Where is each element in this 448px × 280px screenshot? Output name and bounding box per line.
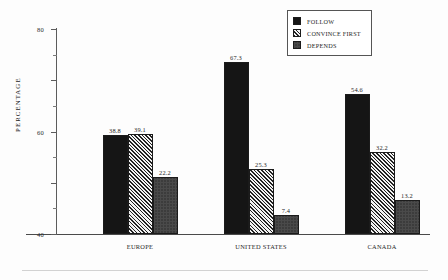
footer-divider — [22, 270, 428, 271]
y-axis-tick: 20 — [51, 183, 57, 184]
y-axis-title: PERCENTAGE — [14, 77, 21, 132]
bar-value-label: 54.6 — [351, 86, 363, 93]
bar-value-label: 25.3 — [255, 161, 267, 168]
bar-group: 38.839.122.2 — [103, 29, 178, 234]
x-axis-line — [26, 234, 430, 235]
bar-value-label: 22.2 — [159, 169, 171, 176]
bar-group: 67.325.37.4 — [224, 29, 299, 234]
plot-area: 020406080 38.839.122.267.325.37.454.632.… — [56, 29, 426, 234]
bar[interactable]: 39.1 — [128, 134, 153, 234]
diagonal-hatch-swatch — [293, 29, 301, 37]
bar[interactable]: 22.2 — [153, 177, 178, 234]
x-axis-tick-label: EUROPE — [127, 243, 154, 250]
y-axis-tick-label: 40 — [37, 231, 44, 238]
y-axis-minor-tick — [53, 55, 57, 56]
bar-value-label: 38.8 — [109, 127, 121, 134]
bar-value-label: 13.2 — [401, 192, 413, 199]
legend-item-label: DEPENDS — [307, 42, 337, 49]
bar-value-label: 39.1 — [134, 126, 146, 133]
bar-value-label: 32.2 — [376, 144, 388, 151]
y-axis-tick: 80 — [51, 29, 57, 30]
bar[interactable]: 25.3 — [249, 169, 274, 234]
bar[interactable]: 7.4 — [274, 215, 299, 234]
stipple-swatch — [293, 41, 301, 49]
bar[interactable]: 38.8 — [103, 135, 128, 234]
legend-item-label: CONVINCE FIRST — [307, 30, 361, 37]
legend-item: CONVINCE FIRST — [293, 27, 366, 39]
bar-value-label: 7.4 — [282, 207, 290, 214]
y-axis-minor-tick — [53, 106, 57, 107]
bar[interactable]: 54.6 — [345, 94, 370, 234]
chart-figure: PERCENTAGE 020406080 38.839.122.267.325.… — [0, 0, 448, 280]
bar[interactable]: 67.3 — [224, 62, 249, 234]
x-axis-tick-label: CANADA — [367, 243, 396, 250]
solid-black-swatch — [293, 17, 301, 25]
chart-legend: FOLLOW CONVINCE FIRST DEPENDS — [287, 10, 372, 56]
bar[interactable]: 32.2 — [370, 152, 395, 235]
legend-item: DEPENDS — [293, 39, 366, 51]
y-axis-tick-label: 80 — [37, 26, 44, 33]
y-axis-tick: 0 — [51, 234, 57, 235]
bar-group: 54.632.213.2 — [345, 29, 420, 234]
x-axis-tick-label: UNITED STATES — [235, 243, 287, 250]
y-axis-minor-tick — [53, 157, 57, 158]
y-axis-minor-tick — [53, 208, 57, 209]
legend-item: FOLLOW — [293, 15, 366, 27]
y-axis-tick: 40 — [51, 132, 57, 133]
bar[interactable]: 13.2 — [395, 200, 420, 234]
legend-item-label: FOLLOW — [307, 18, 334, 25]
bar-value-label: 67.3 — [230, 54, 242, 61]
y-axis-tick: 60 — [51, 80, 57, 81]
y-axis-tick-label: 60 — [37, 128, 44, 135]
